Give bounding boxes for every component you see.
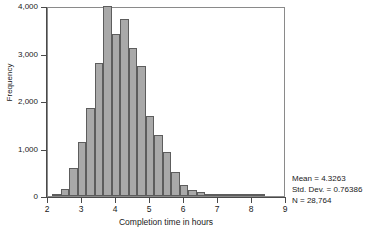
x-axis-tick-label: 4 — [105, 205, 125, 214]
histogram-bar — [163, 152, 172, 196]
x-axis-tick-label: 2 — [37, 205, 57, 214]
histogram-bar — [137, 66, 146, 196]
histogram-bar — [112, 34, 121, 196]
y-axis-tick — [41, 55, 47, 56]
x-axis-title: Completion time in hours — [47, 217, 285, 227]
x-axis-tick-label: 6 — [173, 205, 193, 214]
histogram-bar — [69, 168, 78, 196]
x-axis-tick-label: 5 — [139, 205, 159, 214]
histogram-bar — [205, 194, 214, 196]
y-axis-tick-label: 1,000 — [18, 146, 38, 154]
x-axis-tick — [217, 197, 218, 203]
y-axis-tick — [41, 150, 47, 151]
histogram-bar — [180, 185, 189, 196]
y-axis-tick-label: 0 — [34, 193, 38, 201]
x-axis-tick-label: 3 — [71, 205, 91, 214]
histogram-bar — [103, 6, 112, 196]
x-axis-tick — [47, 197, 48, 203]
histogram-bar — [214, 194, 223, 196]
histogram-bar — [129, 48, 138, 196]
x-axis-tick — [285, 197, 286, 203]
histogram-bar — [248, 194, 257, 196]
stats-mean: Mean = 4.3263 — [292, 173, 362, 184]
x-axis-tick — [251, 197, 252, 203]
histogram-bar — [197, 192, 206, 197]
y-axis-tick — [41, 7, 47, 8]
histogram-bar — [120, 19, 129, 196]
y-axis-tick-label: 4,000 — [18, 3, 38, 11]
x-axis-tick-label: 7 — [207, 205, 227, 214]
histogram-bar — [188, 190, 197, 196]
histogram-bar — [52, 194, 61, 196]
x-axis-tick — [115, 197, 116, 203]
histogram-bar — [154, 135, 163, 196]
histogram-bar — [222, 194, 231, 196]
histogram-bar — [78, 142, 87, 196]
stats-annotation: Mean = 4.3263 Std. Dev. = 0.76386 N = 28… — [292, 173, 362, 206]
x-axis-tick — [183, 197, 184, 203]
histogram-bar — [231, 194, 240, 196]
y-axis-tick-label: 2,000 — [18, 98, 38, 106]
y-axis-tick-label: 3,000 — [18, 51, 38, 59]
plot-area — [48, 8, 284, 196]
x-axis-tick-label: 8 — [241, 205, 261, 214]
histogram-bar — [146, 116, 155, 196]
plot-frame — [47, 7, 285, 197]
y-axis-title: Frequency — [5, 48, 14, 118]
x-axis-tick — [81, 197, 82, 203]
histogram-bar — [256, 194, 265, 196]
x-axis-tick — [149, 197, 150, 203]
y-axis-tick — [41, 102, 47, 103]
histogram-bar — [95, 63, 104, 196]
x-axis-tick-label: 9 — [275, 205, 295, 214]
stats-std-dev: Std. Dev. = 0.76386 — [292, 184, 362, 195]
histogram-bar — [61, 189, 70, 196]
histogram-figure: 01,0002,0003,0004,000 23456789 Frequency… — [0, 0, 380, 232]
stats-n: N = 28,764 — [292, 195, 362, 206]
x-axis-line — [46, 197, 286, 198]
histogram-bar — [86, 108, 95, 196]
histogram-bar — [171, 172, 180, 196]
histogram-bar — [239, 194, 248, 196]
